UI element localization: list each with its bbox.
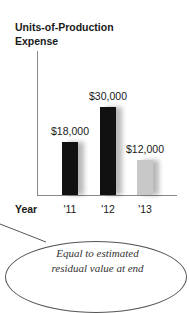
callout-note: Equal to estimated residual value at end: [20, 246, 175, 276]
callout-note-line1: Equal to estimated: [20, 246, 175, 261]
callout-note-line2: residual value at end: [20, 261, 175, 276]
